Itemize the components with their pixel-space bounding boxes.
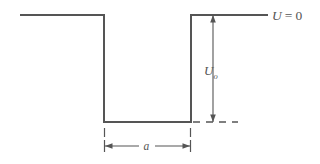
- well-depth-label: Uo: [204, 63, 218, 81]
- zero-level-label: U=0: [272, 8, 302, 23]
- zero-level-value: 0: [295, 8, 302, 23]
- potential-curve: [20, 15, 268, 122]
- well-width-label: a: [144, 140, 150, 152]
- potential-well-diagram: U=0 Uo a: [0, 0, 320, 164]
- well-depth-subscript: o: [213, 71, 217, 81]
- width-dimension-arrow-head-right: [183, 143, 191, 149]
- potential-well-figure: U=0 Uo a: [0, 0, 320, 164]
- zero-level-relation: =: [285, 8, 293, 23]
- zero-level-symbol: U: [272, 8, 283, 23]
- width-dimension-arrow-head-left: [105, 143, 113, 149]
- well-depth-arrow-head-top: [210, 15, 216, 23]
- well-depth-arrow-head-bottom: [210, 115, 216, 123]
